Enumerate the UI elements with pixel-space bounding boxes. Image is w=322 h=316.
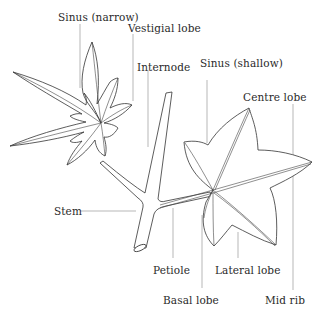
label-centre-lobe: Centre lobe (243, 91, 307, 103)
label-mid-rib: Mid rib (265, 294, 305, 306)
left-leaf (10, 42, 132, 165)
label-petiole: Petiole (153, 264, 190, 276)
label-sinus-shallow: Sinus (shallow) (200, 57, 283, 69)
label-basal-lobe: Basal lobe (163, 294, 219, 306)
label-internode: Internode (137, 61, 190, 73)
label-sinus-narrow: Sinus (narrow) (58, 11, 139, 23)
right-leaf (160, 108, 312, 246)
label-lateral-lobe: Lateral lobe (215, 264, 280, 276)
label-vestigial-lobe: Vestigial lobe (128, 22, 201, 34)
ivy-leaf-diagram: Sinus (narrow) Vestigial lobe Internode … (0, 0, 322, 316)
label-stem: Stem (54, 205, 82, 217)
